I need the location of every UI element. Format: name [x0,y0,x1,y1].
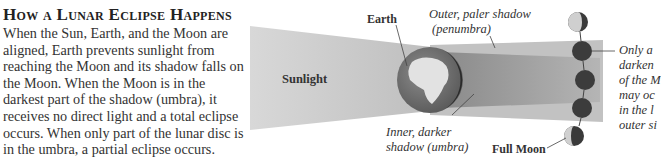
moon-eclipsed-2 [575,70,595,90]
moon-full [564,126,584,146]
umbra-label-line2: shadow (umbra) [386,140,468,155]
sunlight-label: Sunlight [282,72,327,87]
side-note-line: outer si [619,118,657,133]
side-note-line: of the M [619,73,661,88]
penumbra-label-line2: (penumbra) [432,22,491,37]
side-note-line: darken [619,58,654,73]
full-moon-label: Full Moon [492,142,546,157]
umbra-label-line1: Inner, darker [386,125,451,140]
side-note-line: may oc [619,88,655,103]
moon-eclipsed-1 [572,41,592,61]
moon-partial-top [568,12,588,32]
earth-globe [397,47,463,113]
penumbra-label-line1: Outer, paler shadow [429,7,531,22]
side-note-line: in the l [619,103,654,118]
side-note-line: Only a [619,43,653,58]
earth-label: Earth [367,12,397,27]
moon-eclipsed-3 [572,98,592,118]
